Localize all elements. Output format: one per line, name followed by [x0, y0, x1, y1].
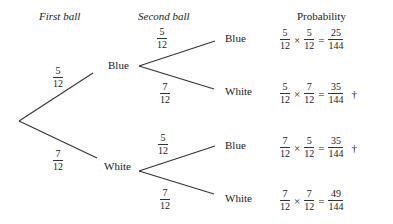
- outcome-white-white: 712 × 712 = 49144: [280, 189, 351, 212]
- prob-first-blue: 512: [53, 66, 63, 89]
- leaf-white-white: White: [225, 192, 252, 204]
- outcome-blue-blue: 512 × 512 = 25144: [280, 28, 351, 51]
- prob-blue-blue: 512: [157, 27, 167, 50]
- dagger-mark: †: [351, 142, 357, 154]
- node-white: White: [104, 160, 131, 172]
- header-probability: Probability: [297, 10, 346, 22]
- branch-blue-blue: [139, 41, 215, 66]
- branch-white-blue: [139, 146, 215, 171]
- branch-blue-white: [139, 66, 214, 89]
- outcome-blue-white: 512 × 712 = 35144 †: [280, 82, 357, 105]
- leaf-white-blue: Blue: [225, 139, 246, 151]
- dagger-mark: †: [351, 88, 357, 100]
- header-second-ball: Second ball: [138, 10, 190, 22]
- node-blue: Blue: [108, 59, 129, 71]
- prob-blue-white: 712: [160, 82, 170, 105]
- header-first-ball: First ball: [39, 10, 80, 22]
- leaf-blue-blue: Blue: [225, 32, 246, 44]
- prob-white-white: 712: [160, 188, 170, 211]
- prob-first-white: 712: [53, 149, 63, 172]
- branch-white-white: [139, 171, 214, 194]
- prob-white-blue: 512: [158, 133, 168, 156]
- outcome-white-blue: 712 × 512 = 35144 †: [280, 136, 357, 159]
- leaf-blue-white: White: [225, 85, 252, 97]
